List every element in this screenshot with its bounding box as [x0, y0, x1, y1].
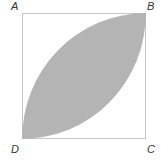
square-lens-diagram: A B C D: [0, 0, 161, 167]
vertex-label-d: D: [11, 143, 19, 155]
vertex-label-b: B: [147, 0, 154, 12]
shaded-lens-region: [23, 14, 146, 139]
vertex-label-c: C: [147, 143, 155, 155]
vertex-label-a: A: [10, 0, 18, 12]
